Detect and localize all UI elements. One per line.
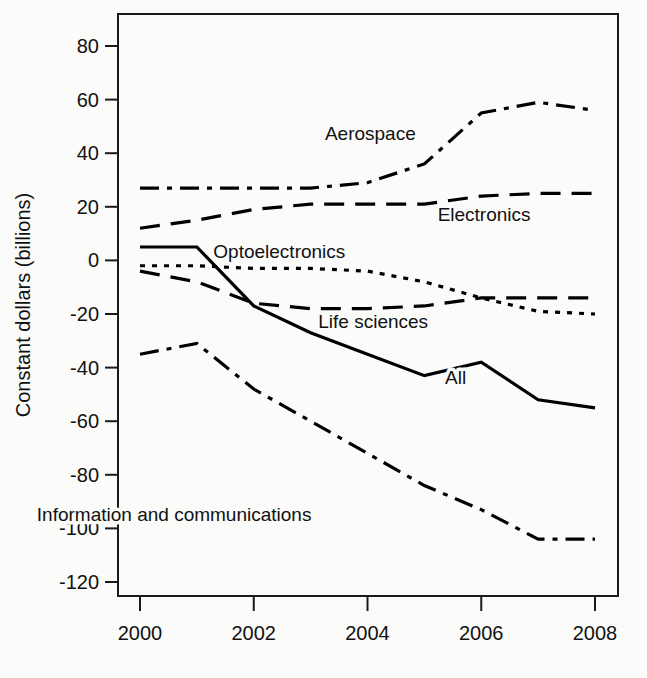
y-tick-label: -80 — [70, 464, 99, 486]
x-tick-label: 2002 — [232, 622, 277, 644]
y-tick-label: -40 — [70, 357, 99, 379]
series-label-optoelectronics: Optoelectronics — [213, 241, 345, 262]
series-line-aerospace — [140, 102, 595, 188]
y-tick-label: 20 — [77, 196, 99, 218]
series-label-aerospace: Aerospace — [325, 123, 416, 144]
y-axis-title: Constant dollars (billions) — [12, 193, 34, 418]
y-tick-label: -20 — [70, 303, 99, 325]
series-annotations: AerospaceAerospaceElectronicsElectronics… — [37, 123, 531, 525]
y-tick-label: 40 — [77, 142, 99, 164]
x-tick-label: 2004 — [345, 622, 390, 644]
y-tick-label: 80 — [77, 35, 99, 57]
x-tick-label: 2000 — [118, 622, 163, 644]
series-label-life-sciences: Life sciences — [318, 311, 428, 332]
series-line-optoelectronics — [140, 266, 595, 314]
line-chart: 806040200-20-40-60-80-100-120 2000200220… — [0, 0, 647, 678]
y-tick-label: 60 — [77, 89, 99, 111]
series-line-life-sciences — [140, 271, 595, 309]
x-tick-label: 2006 — [459, 622, 504, 644]
x-tick-label: 2008 — [573, 622, 618, 644]
y-tick-label: -60 — [70, 410, 99, 432]
series-label-information-and-communications: Information and communications — [37, 504, 312, 525]
series-label-electronics: Electronics — [438, 204, 531, 225]
chart-figure: 806040200-20-40-60-80-100-120 2000200220… — [0, 0, 647, 678]
series-label-all: All — [445, 367, 466, 388]
x-axis-ticks: 20002002200420062008 — [118, 596, 618, 644]
y-tick-label: 0 — [88, 249, 99, 271]
y-tick-label: -120 — [59, 571, 99, 593]
